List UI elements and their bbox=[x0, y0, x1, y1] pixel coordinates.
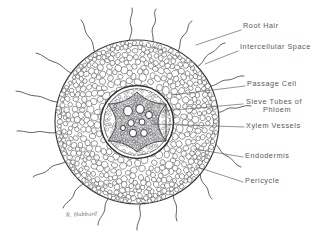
label-root-hair: Root Hair bbox=[243, 22, 279, 30]
label-pericycle: Pericycle bbox=[245, 177, 280, 185]
label-endodermis: Endodermis bbox=[245, 152, 289, 160]
diagram-canvas: Root Hair Intercellular Space Passage Ce… bbox=[0, 0, 328, 244]
label-sieve-tubes-of-phloem: Sieve Tubes of Phloem bbox=[246, 98, 320, 114]
label-sieve-tubes-line2: Phloem bbox=[246, 106, 308, 114]
artist-signature: R. Hubbard bbox=[66, 210, 97, 217]
label-intercellular-space: Intercellular Space bbox=[240, 43, 311, 51]
label-passage-cell: Passage Cell bbox=[247, 80, 297, 88]
label-xylem-vessels: Xylem Vessels bbox=[246, 122, 301, 130]
